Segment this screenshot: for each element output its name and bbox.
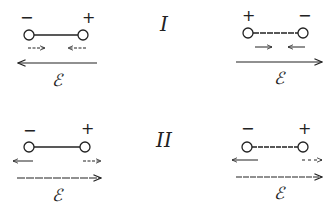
charge-sphere-right	[298, 28, 308, 38]
charge-sphere-left	[242, 142, 252, 152]
charge-sphere-right	[298, 142, 308, 152]
charge-sphere-right	[78, 30, 88, 40]
charge-sign-II-right-right: +	[298, 121, 311, 137]
row-label-II: II	[156, 128, 172, 152]
charge-sphere-left	[24, 142, 34, 152]
charge-sign-II-right-left: −	[241, 121, 254, 137]
charge-sphere-left	[243, 28, 253, 38]
charge-sign-I-left-right: +	[82, 10, 95, 26]
charge-sign-I-right-left: +	[242, 8, 255, 24]
dipole-II-right	[232, 142, 322, 177]
charge-sign-I-left-left: −	[20, 10, 33, 26]
dipole-I-left	[18, 30, 97, 63]
charge-sign-I-right-right: −	[298, 8, 311, 24]
field-label-II-right: ℰ	[274, 183, 284, 203]
charge-sign-II-left-right: +	[81, 121, 94, 137]
field-label-I-left: ℰ	[52, 70, 62, 90]
row-label-I: I	[160, 12, 168, 36]
charge-sphere-right	[80, 142, 90, 152]
field-label-I-right: ℰ	[274, 68, 284, 88]
charge-sphere-left	[24, 30, 34, 40]
dipole-I-right	[236, 28, 322, 62]
field-label-II-left: ℰ	[52, 185, 62, 205]
dipole-II-left	[13, 142, 101, 178]
charge-sign-II-left-left: −	[23, 123, 36, 139]
